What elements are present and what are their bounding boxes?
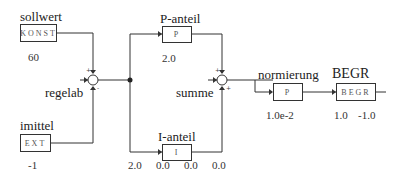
begr-block[interactable]: BEGR [336,83,376,101]
svg-text:+: + [215,66,220,73]
svg-text:+: + [226,84,231,91]
p-anteil-block[interactable]: P [162,26,192,43]
begr-param-max: -1.0 [358,110,375,121]
i-anteil-param-1: 2.0 [128,160,142,171]
block-type: BEGR [341,88,370,97]
sollwert-konst-block[interactable]: KONST [20,24,57,42]
imittel-param: -1 [28,160,37,171]
p-anteil-param: 2.0 [162,53,176,64]
branch-point [128,78,133,83]
begr-param-min: 1.0 [334,110,348,121]
block-type: P [174,30,180,39]
block-type: P [285,88,291,97]
regelab-label: regelab [45,86,83,99]
block-type: I [175,148,180,157]
i-anteil-param-3: 0.0 [184,160,198,171]
imittel-ext-block[interactable]: EXT [20,134,51,152]
normierung-label: normierung [258,68,319,81]
normierung-param: 1.0e-2 [266,110,294,121]
block-type: KONST [20,29,57,38]
block-type: EXT [25,139,47,148]
i-anteil-param-4: 0.0 [212,160,226,171]
sollwert-label: sollwert [20,10,62,23]
svg-text:-: - [97,84,99,91]
normierung-block[interactable]: P [273,83,303,101]
begr-label: BEGR [332,67,369,80]
i-anteil-label: I-anteil [158,130,196,143]
sollwert-param: 60 [28,52,39,63]
imittel-label: imittel [20,119,54,132]
i-anteil-param-2: 0.0 [156,160,170,171]
summe-label: summe [176,86,214,99]
svg-text:+: + [86,66,91,73]
p-anteil-label: P-anteil [160,12,200,25]
